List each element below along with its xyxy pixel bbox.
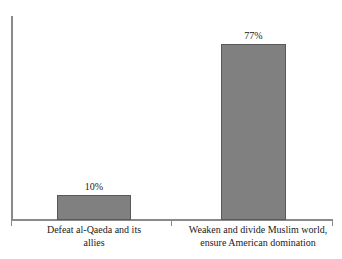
bar-defeat-al-qaeda[interactable] [57,195,131,220]
category-label-1-line-2: allies [26,237,162,250]
bar-value-label-1: 10% [57,181,131,193]
bar-weaken-divide-muslim-world[interactable] [221,44,286,220]
category-label-2-line-1: Weaken and divide Muslim world, [180,224,336,237]
x-axis-tick-middle [171,221,172,226]
category-label-1-line-1: Defeat al-Qaeda and its [26,224,162,237]
bar-chart: 10% Defeat al-Qaeda and its allies 77% W… [0,0,342,259]
bar-value-label-2: 77% [221,30,286,42]
y-axis-line [11,16,13,221]
category-label-2: Weaken and divide Muslim world, ensure A… [180,224,336,249]
category-label-2-line-2: ensure American domination [180,237,336,250]
category-label-1: Defeat al-Qaeda and its allies [26,224,162,249]
x-axis-tick-left [11,221,12,226]
